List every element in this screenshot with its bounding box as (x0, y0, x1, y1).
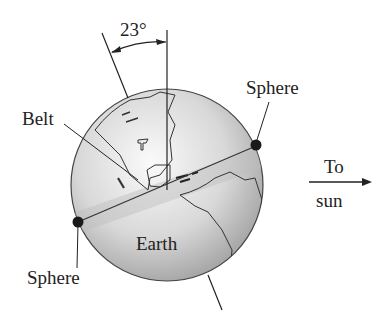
arc-arrowhead-left (111, 46, 121, 53)
sphere-top-label: Sphere (246, 78, 299, 97)
belt-label: Belt (22, 109, 54, 128)
sphere-top-leader (256, 102, 269, 143)
angle-label: 23° (120, 20, 147, 39)
sphere-top-dot (251, 140, 262, 151)
sun-arrow-head (362, 178, 372, 186)
tilted-axis-line (102, 33, 128, 98)
sun-label: sun (316, 191, 342, 210)
sphere-bottom-leader (77, 224, 78, 268)
sphere-bottom-label: Sphere (27, 268, 80, 287)
to-label: To (324, 157, 344, 176)
sphere-bottom-dot (73, 217, 84, 228)
tilted-axis-bottom (208, 275, 222, 310)
arc-arrowhead-right (156, 39, 166, 45)
earth-label: Earth (136, 234, 177, 253)
